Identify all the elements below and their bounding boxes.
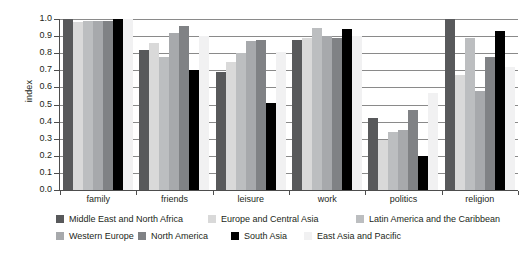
bar (378, 140, 388, 190)
bar (159, 57, 169, 190)
bar (189, 70, 199, 190)
bar (302, 38, 312, 190)
legend-item-label: South Asia (244, 231, 287, 241)
bar (495, 31, 505, 190)
x-tick-label: family (60, 194, 136, 205)
bar (246, 41, 256, 190)
bar (428, 93, 438, 190)
legend-item[interactable]: South Asia (231, 229, 287, 243)
chart-legend: Middle East and North AfricaEurope and C… (56, 212, 526, 252)
x-tick-mark (518, 191, 519, 195)
legend-swatch-icon (208, 215, 216, 223)
bar (445, 19, 455, 190)
legend-item[interactable]: Western Europe (56, 229, 134, 243)
y-tick-label: 0.6 (26, 82, 52, 91)
legend-swatch-icon (56, 232, 64, 240)
y-tick-label: 0.7 (26, 65, 52, 74)
legend-swatch-icon (138, 232, 146, 240)
y-tick-label: 1.0 (26, 14, 52, 23)
bar-group (289, 19, 365, 190)
y-tick-label: 0.1 (26, 168, 52, 177)
legend-swatch-icon (56, 215, 64, 223)
legend-item-label: North America (151, 231, 208, 241)
legend-item[interactable]: North America (138, 229, 208, 243)
bar (266, 103, 276, 190)
bar (179, 26, 189, 190)
legend-item-label: Middle East and North Africa (69, 214, 183, 224)
legend-swatch-icon (356, 215, 364, 223)
bar (149, 43, 159, 190)
y-tick-label: 0.3 (26, 134, 52, 143)
bar (63, 19, 73, 190)
bar (332, 38, 342, 190)
bar (485, 57, 495, 190)
bar (418, 156, 428, 190)
y-tick-label: 0.0 (26, 185, 52, 194)
legend-item-label: East Asia and Pacific (317, 231, 401, 241)
bar (505, 67, 515, 190)
y-tick-label: 0.9 (26, 31, 52, 40)
bar (103, 21, 113, 190)
legend-row-1: Middle East and North AfricaEurope and C… (56, 212, 526, 226)
legend-item-label: Europe and Central Asia (221, 214, 319, 224)
bar (169, 33, 179, 190)
bar-group (365, 19, 441, 190)
bar (465, 38, 475, 190)
x-tick-label: work (289, 194, 365, 205)
bar (352, 36, 362, 190)
x-tick-label: politics (365, 194, 441, 205)
legend-row-2: Western EuropeNorth AmericaSouth AsiaEas… (56, 229, 526, 243)
bar (408, 110, 418, 190)
legend-swatch-icon (231, 232, 239, 240)
bar (312, 28, 322, 190)
bar (342, 29, 352, 190)
bar (216, 72, 226, 190)
legend-swatch-icon (304, 232, 312, 240)
y-tick-label: 0.4 (26, 117, 52, 126)
bar-chart-figure: index 1.00.90.80.70.60.50.40.30.20.10.0 … (0, 0, 530, 261)
bar (199, 36, 209, 190)
bar (123, 19, 133, 190)
x-tick-label: leisure (213, 194, 289, 205)
bar (398, 130, 408, 190)
x-tick-label: friends (136, 194, 212, 205)
legend-item[interactable]: Latin America and the Caribbean (356, 212, 500, 226)
bar (292, 40, 302, 190)
legend-item[interactable]: Middle East and North Africa (56, 212, 183, 226)
bar (368, 118, 378, 190)
legend-item-label: Western Europe (69, 231, 134, 241)
bar (83, 21, 93, 190)
x-tick-label: religion (442, 194, 518, 205)
y-tick-label: 0.8 (26, 48, 52, 57)
bar (139, 50, 149, 190)
bar-group (442, 19, 518, 190)
bar-group (136, 19, 212, 190)
bar-group (213, 19, 289, 190)
bar-group (60, 19, 136, 190)
legend-item[interactable]: East Asia and Pacific (304, 229, 401, 243)
bar (93, 21, 103, 190)
y-tick-label: 0.5 (26, 100, 52, 109)
bar (388, 132, 398, 190)
bar (256, 40, 266, 190)
bar (322, 36, 332, 190)
bar (475, 91, 485, 190)
bar (113, 19, 123, 190)
bar (455, 75, 465, 190)
plot-area (60, 19, 518, 190)
bar (226, 62, 236, 190)
bar (276, 52, 286, 191)
bar (73, 22, 83, 190)
y-tick-label: 0.2 (26, 151, 52, 160)
bar (236, 53, 246, 190)
legend-item[interactable]: Europe and Central Asia (208, 212, 319, 226)
legend-item-label: Latin America and the Caribbean (369, 214, 500, 224)
